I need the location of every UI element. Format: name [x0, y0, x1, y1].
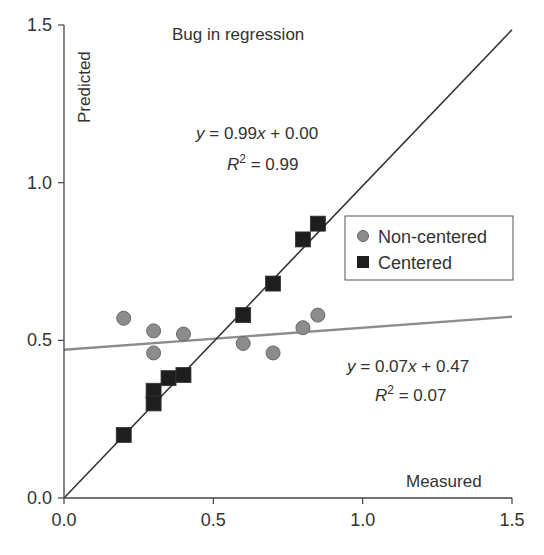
equation-centered: y = 0.99x + 0.00 [195, 124, 318, 143]
y-tick-label: 0.0 [27, 488, 52, 508]
point-non-centered [176, 327, 190, 341]
annotation-non-centered: y = 0.07x + 0.47 R2 = 0.07 [346, 357, 469, 405]
x-tick-label: 0.0 [51, 510, 76, 530]
point-centered [236, 308, 251, 323]
data-points [116, 216, 325, 442]
legend: Non-centered Centered [345, 216, 513, 280]
x-tick-label: 0.5 [201, 510, 226, 530]
y-tick-label: 1.5 [27, 15, 52, 35]
point-non-centered [147, 324, 161, 338]
x-tick-label: 1.0 [350, 510, 375, 530]
point-centered [146, 396, 161, 411]
r2-centered: R2 = 0.99 [227, 152, 298, 174]
point-non-centered [117, 311, 131, 325]
point-centered [116, 427, 131, 442]
point-centered [176, 368, 191, 383]
chart-title: Bug in regression [172, 25, 304, 44]
point-non-centered [266, 346, 280, 360]
y-axis-label: Predicted [75, 51, 94, 123]
chart: 0.00.51.01.5 0.00.51.01.5 Bug in regress… [0, 0, 544, 555]
legend-marker-centered [357, 256, 369, 268]
legend-label-non-centered: Non-centered [378, 227, 487, 247]
x-ticks: 0.00.51.01.5 [51, 498, 524, 530]
point-centered [266, 276, 281, 291]
x-tick-label: 1.5 [499, 510, 524, 530]
point-non-centered [311, 308, 325, 322]
r2-non-centered: R2 = 0.07 [375, 383, 446, 405]
point-centered [310, 216, 325, 231]
point-non-centered [296, 321, 310, 335]
y-tick-label: 0.5 [27, 330, 52, 350]
y-ticks: 0.00.51.01.5 [27, 15, 64, 508]
point-non-centered [236, 336, 250, 350]
point-centered [161, 371, 176, 386]
point-non-centered [147, 346, 161, 360]
x-axis-label: Measured [406, 472, 482, 491]
legend-label-centered: Centered [378, 253, 452, 273]
fit-line-non-centered [64, 317, 512, 350]
legend-marker-non-centered [358, 231, 369, 242]
y-tick-label: 1.0 [27, 173, 52, 193]
annotation-centered: y = 0.99x + 0.00 R2 = 0.99 [195, 124, 318, 174]
point-centered [295, 232, 310, 247]
equation-non-centered: y = 0.07x + 0.47 [346, 357, 469, 376]
